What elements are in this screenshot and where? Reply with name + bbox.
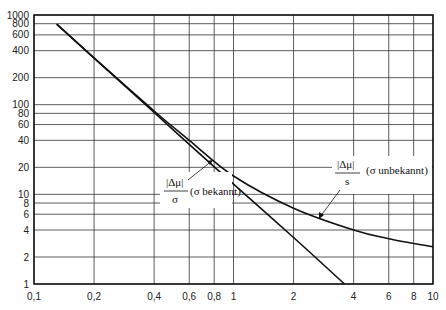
- y-tick-label: 200: [12, 72, 29, 83]
- annotation-2-denominator: s: [345, 175, 349, 187]
- x-axis-tick-labels: 0,10,20,40,60,81246810: [27, 291, 439, 302]
- annotation-sigma-unknown: |Δμ| s (σ unbekannt): [319, 156, 432, 219]
- annotation-2-numerator: |Δμ|: [337, 158, 354, 170]
- y-tick-label: 400: [12, 45, 29, 56]
- x-tick-label: 8: [411, 291, 417, 302]
- x-tick-label: 0,8: [207, 291, 221, 302]
- x-tick-label: 0,6: [182, 291, 196, 302]
- annotation-1-numerator: |Δμ|: [166, 176, 183, 188]
- chart: 0,10,20,40,60,81246810 12468102040608010…: [0, 0, 446, 310]
- x-tick-label: 4: [351, 291, 357, 302]
- y-axis-tick-labels: 1246810204060801002004006008001000: [7, 10, 30, 290]
- series-line-sigma-unknown: [57, 24, 433, 247]
- x-tick-label: 6: [386, 291, 392, 302]
- grid-lines: [34, 15, 433, 284]
- x-tick-label: 1: [231, 291, 237, 302]
- y-tick-label: 20: [18, 162, 30, 173]
- x-tick-label: 0,4: [147, 291, 161, 302]
- y-tick-label: 600: [12, 29, 29, 40]
- y-tick-label: 4: [23, 225, 29, 236]
- y-tick-label: 2: [23, 252, 29, 263]
- y-tick-label: 6: [23, 209, 29, 220]
- y-tick-label: 1: [23, 279, 29, 290]
- annotation-1-denominator: σ: [172, 193, 178, 205]
- x-tick-label: 2: [291, 291, 297, 302]
- y-tick-label: 10: [18, 189, 30, 200]
- x-tick-label: 0,2: [87, 291, 101, 302]
- y-tick-label: 40: [18, 135, 30, 146]
- x-tick-label: 0,1: [27, 291, 41, 302]
- y-tick-label: 100: [12, 99, 29, 110]
- annotation-1-label: (σ bekannt): [190, 185, 241, 198]
- annotation-2-label: (σ unbekannt): [366, 164, 428, 177]
- y-tick-label: 60: [18, 119, 30, 130]
- x-tick-label: 10: [427, 291, 439, 302]
- y-tick-label: 1000: [7, 10, 30, 21]
- data-series: [57, 24, 433, 284]
